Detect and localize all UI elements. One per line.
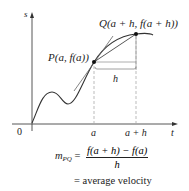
t-axis-label: t [171, 128, 174, 138]
s-axis-label: s [24, 10, 28, 19]
h-bracket [95, 67, 136, 69]
numerator: f(a + h) − f(a) [86, 145, 148, 157]
difference-quotient: f(a + h) − f(a) h [86, 145, 148, 170]
formula-lhs: mPQ = [55, 151, 80, 163]
secant-line [94, 34, 136, 62]
function-curve [32, 33, 153, 123]
tick-label-a: a [91, 128, 96, 138]
tick-label-a-plus-h: a + h [125, 128, 147, 138]
point-q-label: Q(a + h, f(a + h)) [99, 18, 178, 29]
equals-sign: = [75, 150, 81, 161]
average-velocity-line: = average velocity [74, 176, 152, 187]
point-p [92, 60, 96, 64]
origin-label: 0 [17, 127, 22, 137]
denominator: h [115, 158, 120, 170]
point-p-label: P(a, f(a)) [48, 52, 89, 63]
t-axis-arrow-icon [172, 122, 178, 126]
slope-symbol: m [55, 150, 63, 161]
h-interval-label: h [113, 74, 118, 84]
point-q [134, 32, 138, 36]
s-axis-arrow-icon [30, 12, 34, 18]
slope-subscript: PQ [63, 155, 72, 163]
